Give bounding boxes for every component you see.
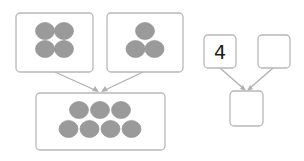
bond-part-a-value: 4: [214, 41, 226, 63]
counter-dot: [80, 120, 99, 137]
arrow-left-to-whole: [55, 72, 97, 91]
counter-dot: [122, 120, 141, 137]
bond-part-b-box[interactable]: [258, 35, 290, 68]
counter-dot: [101, 120, 120, 137]
counter-dot: [36, 22, 55, 39]
counter-dot: [55, 40, 74, 57]
bond-whole-box[interactable]: [230, 91, 263, 126]
counter-dot: [126, 40, 145, 57]
counter-dot: [145, 40, 164, 57]
counter-dot: [91, 101, 110, 118]
bond-arrow-right: [249, 68, 273, 89]
counter-dot: [36, 40, 55, 57]
counter-dot: [136, 22, 155, 39]
number-bond-diagram: 4: [0, 0, 304, 161]
bond-arrow-left: [220, 68, 244, 89]
right-part-box: [107, 13, 183, 72]
counter-dot: [70, 101, 89, 118]
counter-dot: [112, 101, 131, 118]
counter-dot: [59, 120, 78, 137]
left-part-box: [16, 13, 93, 72]
counter-dot: [55, 22, 74, 39]
arrow-right-to-whole: [103, 72, 143, 91]
